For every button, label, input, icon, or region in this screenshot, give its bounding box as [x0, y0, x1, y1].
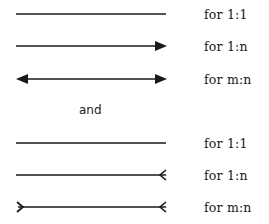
group2-row-1to1: for 1:1 — [0, 134, 269, 154]
arrowhead-right-icon — [155, 41, 167, 51]
cardinality-label: for 1:n — [204, 168, 248, 184]
arrowhead-left-icon — [16, 74, 28, 84]
single-arrow-line-icon — [10, 37, 175, 57]
group1-row-1ton: for 1:n — [0, 37, 269, 57]
double-arrow-line-icon — [10, 70, 175, 90]
separator-text: and — [79, 102, 102, 118]
double-crows-foot-line-icon — [10, 198, 175, 218]
arrowhead-right-icon — [155, 74, 167, 84]
cardinality-label: for m:n — [204, 200, 252, 216]
cardinality-label: for 1:n — [204, 39, 248, 55]
group1-row-1to1: for 1:1 — [0, 5, 269, 25]
group2-row-1ton: for 1:n — [0, 166, 269, 186]
group1-row-mton: for m:n — [0, 70, 269, 90]
plain-line-icon — [10, 5, 175, 25]
group2-row-mton: for m:n — [0, 198, 269, 218]
crows-foot-line-icon — [10, 166, 175, 186]
cardinality-label: for 1:1 — [204, 7, 248, 23]
cardinality-label: for 1:1 — [204, 136, 248, 152]
cardinality-label: for m:n — [204, 72, 252, 88]
plain-line-icon — [10, 134, 175, 154]
